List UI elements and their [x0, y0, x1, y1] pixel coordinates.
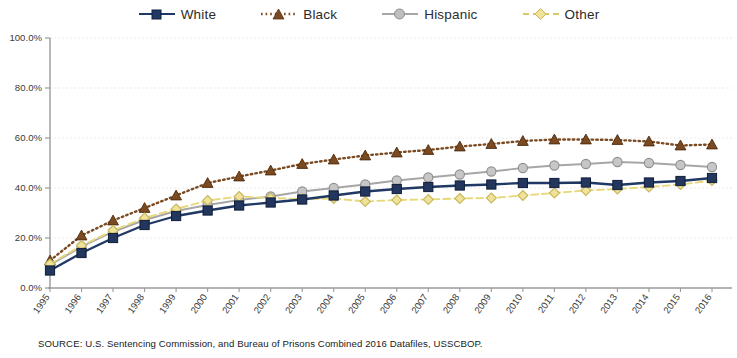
x-axis-tick-label: 2003 — [283, 292, 304, 316]
gridlines — [50, 38, 732, 238]
data-point-marker — [392, 195, 402, 205]
y-axis-tick-label: 60.0% — [15, 132, 43, 143]
data-point-marker — [235, 201, 244, 210]
data-point-marker — [108, 215, 119, 225]
y-axis-tick-label: 80.0% — [15, 82, 43, 93]
series-hispanic — [45, 157, 716, 269]
x-axis-tick-label: 2008 — [440, 292, 461, 316]
x-axis-tick-label: 1999 — [157, 292, 178, 316]
data-point-marker — [203, 206, 212, 215]
data-point-marker — [486, 193, 496, 203]
data-point-marker — [613, 157, 622, 166]
x-axis-tick-label: 1997 — [94, 292, 115, 316]
data-point-marker — [140, 220, 149, 229]
x-axis-tick-label: 2001 — [220, 292, 241, 316]
data-point-marker — [518, 178, 527, 187]
x-axis-tick-label: 1996 — [62, 292, 83, 316]
data-point-marker — [455, 170, 464, 179]
x-axis-tick-label: 2000 — [188, 292, 209, 316]
data-point-marker — [613, 180, 622, 189]
y-axis-tick-label: 100.0% — [9, 32, 42, 43]
data-point-marker — [581, 159, 590, 168]
x-axis-tick-label: 2015 — [661, 292, 682, 316]
data-point-marker — [644, 158, 653, 167]
data-point-marker — [518, 163, 527, 172]
y-axis-tick-label: 20.0% — [15, 232, 43, 243]
x-axis-tick-label: 2009 — [472, 292, 493, 316]
data-point-marker — [298, 195, 307, 204]
x-axis-tick-label: 2010 — [503, 292, 524, 316]
x-axis-tick-label: 2011 — [535, 292, 556, 315]
data-point-marker — [487, 167, 496, 176]
data-point-marker — [549, 188, 559, 198]
data-point-marker — [676, 176, 685, 185]
data-point-marker — [424, 173, 433, 182]
data-point-marker — [45, 266, 54, 275]
data-point-marker — [707, 173, 716, 182]
data-point-marker — [455, 194, 465, 204]
data-point-marker — [77, 248, 86, 257]
x-axis-tick-label: 2007 — [409, 292, 430, 316]
data-point-marker — [329, 191, 338, 200]
x-axis-tick-label: 2002 — [251, 292, 272, 316]
data-point-marker — [455, 181, 464, 190]
data-point-marker — [392, 184, 401, 193]
data-point-marker — [676, 160, 685, 169]
x-axis-tick-label: 2013 — [598, 292, 619, 316]
line-chart-plot: 0.0%20.0%40.0%60.0%80.0%100.0%1995199619… — [0, 0, 737, 330]
x-axis-tick-label: 2005 — [346, 292, 367, 316]
data-point-marker — [266, 198, 275, 207]
data-point-marker — [644, 178, 653, 187]
data-point-marker — [423, 195, 433, 205]
data-point-marker — [361, 187, 370, 196]
x-axis-tick-label: 1995 — [31, 292, 52, 316]
data-point-marker — [171, 211, 180, 220]
chart-container: White Black Hispanic — [0, 0, 737, 358]
x-axis-tick-label: 2012 — [566, 292, 587, 316]
data-point-marker — [550, 161, 559, 170]
axes: 0.0%20.0%40.0%60.0%80.0%100.0%1995199619… — [9, 32, 732, 315]
data-point-marker — [518, 191, 528, 201]
data-point-marker — [581, 178, 590, 187]
data-point-marker — [360, 197, 370, 207]
x-axis-tick-label: 1998 — [125, 292, 146, 316]
series-black — [45, 134, 718, 265]
data-point-marker — [487, 180, 496, 189]
source-note: SOURCE: U.S. Sentencing Commission, and … — [38, 338, 483, 349]
data-point-marker — [392, 176, 401, 185]
x-axis-tick-label: 2006 — [377, 292, 398, 316]
y-axis-tick-label: 40.0% — [15, 182, 43, 193]
data-point-marker — [550, 178, 559, 187]
x-axis-tick-label: 2004 — [314, 292, 335, 316]
y-axis-tick-label: 0.0% — [20, 282, 42, 293]
x-axis-tick-label: 2016 — [693, 292, 714, 316]
x-axis-tick-label: 2014 — [629, 292, 650, 316]
data-point-marker — [707, 162, 716, 171]
data-point-marker — [424, 182, 433, 191]
data-point-marker — [108, 233, 117, 242]
series-white — [45, 173, 716, 275]
